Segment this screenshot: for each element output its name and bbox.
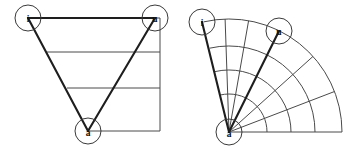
left-triangle-edges <box>28 18 155 131</box>
grid-spoke-80deg <box>229 21 249 132</box>
right-vowel-node-a[interactable]: a <box>216 119 242 145</box>
radial-vowel-chart-panel: i u a <box>171 0 343 154</box>
left-vowel-node-a[interactable]: a <box>75 118 101 144</box>
vowel-node-circle-a <box>216 119 242 145</box>
left-vowel-node-i[interactable]: i <box>15 5 41 31</box>
figure-root: i u a <box>0 0 343 154</box>
left-vowel-node-u[interactable]: u <box>142 5 168 31</box>
vowel-node-circle-u <box>266 18 292 44</box>
vowel-node-circle-u <box>142 5 168 31</box>
vowel-node-circle-i <box>189 9 215 35</box>
triangle-edge-u-a <box>88 18 155 131</box>
vowel-ray-a-i <box>202 22 229 132</box>
right-vowel-rays <box>202 22 279 132</box>
left-grid-lines <box>28 18 160 131</box>
vowel-node-circle-i <box>15 5 41 31</box>
right-vowel-node-u[interactable]: u <box>266 18 292 44</box>
vowel-node-circle-a <box>75 118 101 144</box>
triangular-vowel-chart-panel: i u a <box>0 0 172 154</box>
grid-spoke-42deg <box>229 56 313 132</box>
right-vowel-node-i[interactable]: i <box>189 9 215 35</box>
triangle-edge-i-a <box>28 18 88 131</box>
